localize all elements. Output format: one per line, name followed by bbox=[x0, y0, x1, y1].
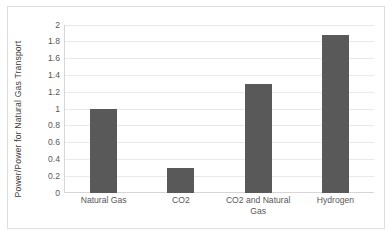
chart-container: Power/Power for Natural Gas Transport 21… bbox=[7, 6, 385, 229]
y-axis-tick-label: 0.4 bbox=[48, 154, 60, 164]
x-axis-tick-labels: Natural GasCO2CO2 and Natural GasHydroge… bbox=[65, 195, 374, 217]
x-axis-tick-label: Hydrogen bbox=[297, 195, 374, 217]
y-axis-tick-label: 1 bbox=[55, 104, 60, 114]
y-axis-tick-label: 0.6 bbox=[48, 137, 60, 147]
y-axis-tick-label: 2 bbox=[55, 20, 60, 30]
bar bbox=[167, 168, 194, 193]
plot-area bbox=[65, 25, 374, 193]
x-axis-tick-label: Natural Gas bbox=[65, 195, 142, 217]
x-axis-tick-label: CO2 bbox=[142, 195, 219, 217]
bar bbox=[322, 35, 349, 192]
bar-slot bbox=[297, 25, 374, 193]
x-axis-tick-label: CO2 and Natural Gas bbox=[220, 195, 297, 217]
y-axis-tick-label: 1.4 bbox=[48, 70, 60, 80]
y-axis-tick-labels: 21.81.61.41.210.80.60.40.20 bbox=[26, 7, 64, 230]
y-axis-title-label: Power/Power for Natural Gas Transport bbox=[13, 40, 23, 197]
y-axis-title: Power/Power for Natural Gas Transport bbox=[8, 7, 28, 230]
y-axis-tick-label: 0 bbox=[55, 188, 60, 198]
y-axis-tick-label: 0.2 bbox=[48, 171, 60, 181]
y-axis-tick-label: 1.6 bbox=[48, 53, 60, 63]
bar bbox=[245, 84, 272, 192]
y-axis-tick-label: 1.8 bbox=[48, 36, 60, 46]
bar-slot bbox=[142, 25, 219, 193]
y-axis-tick-label: 1.2 bbox=[48, 87, 60, 97]
y-axis-tick-label: 0.8 bbox=[48, 120, 60, 130]
bar-slot bbox=[65, 25, 142, 193]
bar-series bbox=[65, 25, 374, 193]
bar bbox=[90, 109, 117, 193]
bar-slot bbox=[220, 25, 297, 193]
